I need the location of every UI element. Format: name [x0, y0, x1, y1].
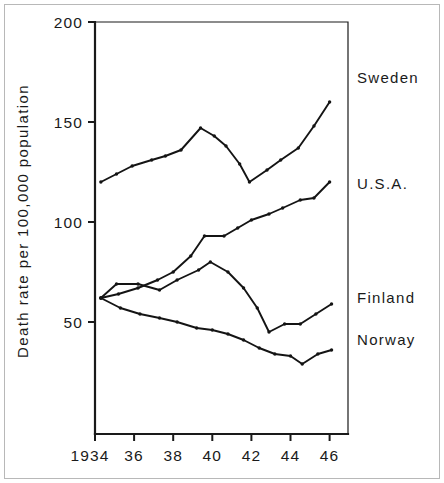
y-tick-label: 50: [64, 314, 83, 331]
x-tick-label: 44: [281, 447, 300, 464]
series-norway: [99, 296, 333, 365]
series-point: [258, 346, 261, 349]
series-point: [189, 254, 192, 257]
series-point: [242, 286, 245, 289]
series-point: [330, 302, 333, 305]
series-point: [301, 362, 304, 365]
series-line: [101, 262, 332, 332]
series-point: [203, 234, 206, 237]
series-point: [117, 292, 120, 295]
series-point: [328, 100, 331, 103]
line-chart: 20015010050 1934363840424446 SwedenU.S.A…: [0, 0, 444, 483]
x-tick-label: 40: [203, 447, 222, 464]
series-point: [289, 354, 292, 357]
series-point: [138, 312, 141, 315]
series-line: [101, 102, 330, 182]
series-point: [179, 148, 182, 151]
y-tick-label: 100: [54, 214, 83, 231]
series-point: [316, 352, 319, 355]
series-point: [211, 328, 214, 331]
x-tick-label: 1934: [71, 447, 110, 464]
series-point: [226, 270, 229, 273]
y-tick-label: 150: [54, 114, 83, 131]
series-point: [299, 198, 302, 201]
series-point: [273, 352, 276, 355]
series-point: [195, 326, 198, 329]
series-point: [328, 180, 331, 183]
series-point: [158, 316, 161, 319]
series-point: [312, 196, 315, 199]
series-point: [158, 288, 161, 291]
series-point: [199, 126, 202, 129]
series-point: [279, 158, 282, 161]
series-line: [101, 298, 332, 364]
series-point: [267, 330, 270, 333]
series-point: [299, 322, 302, 325]
series-line: [101, 182, 330, 298]
x-tick-label: 36: [124, 447, 143, 464]
series-point: [226, 332, 229, 335]
series-point: [172, 270, 175, 273]
series-point: [242, 338, 245, 341]
x-tick-label: 46: [320, 447, 339, 464]
series-point: [130, 164, 133, 167]
series-point: [236, 226, 239, 229]
series-point: [209, 260, 212, 263]
y-axis-tick-labels: 20015010050: [54, 14, 83, 331]
series-point: [99, 180, 102, 183]
x-tick-label: 42: [242, 447, 261, 464]
figure-root: 20015010050 1934363840424446 SwedenU.S.A…: [0, 0, 444, 483]
series-point: [281, 206, 284, 209]
plot-frame-box: [95, 22, 348, 434]
series-point: [265, 168, 268, 171]
series-point: [314, 312, 317, 315]
x-tick-label: 38: [163, 447, 182, 464]
series-point: [115, 172, 118, 175]
x-axis-tick-labels: 1934363840424446: [71, 447, 340, 464]
series-point: [99, 296, 102, 299]
series-labels-group: SwedenU.S.A.FinlandNorway: [357, 69, 419, 348]
series-point: [164, 154, 167, 157]
y-axis-title: Death rate per 100,000 population: [14, 84, 31, 358]
series-point: [222, 234, 225, 237]
series-point: [150, 158, 153, 161]
data-series-group: [99, 100, 333, 365]
series-point: [330, 348, 333, 351]
series-point: [175, 320, 178, 323]
y-tick-label: 200: [54, 14, 83, 31]
series-point: [197, 268, 200, 271]
series-point: [175, 278, 178, 281]
series-finland: [99, 260, 333, 333]
series-point: [238, 162, 241, 165]
series-point: [283, 322, 286, 325]
series-point: [267, 212, 270, 215]
series-point: [119, 306, 122, 309]
series-point: [250, 218, 253, 221]
series-label-finland: Finland: [357, 289, 415, 306]
series-sweden: [99, 100, 331, 183]
series-point: [248, 180, 251, 183]
series-point: [136, 282, 139, 285]
series-point: [224, 144, 227, 147]
series-point: [136, 286, 139, 289]
series-label-sweden: Sweden: [357, 69, 419, 86]
series-u-s-a: [99, 180, 331, 299]
series-point: [256, 306, 259, 309]
series-point: [115, 282, 118, 285]
series-point: [213, 134, 216, 137]
series-point: [156, 278, 159, 281]
plot-frame: [95, 22, 348, 434]
series-label-u-s-a: U.S.A.: [357, 175, 408, 192]
series-point: [312, 124, 315, 127]
series-label-norway: Norway: [357, 331, 416, 348]
series-point: [297, 146, 300, 149]
